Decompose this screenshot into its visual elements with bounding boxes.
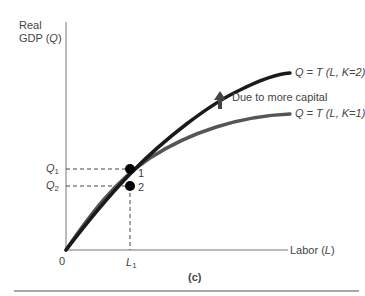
x-axis-label-post: ) [331,244,335,256]
q1-tick-label: Q1 [46,163,59,176]
y-axis-label-line2a: GDP ( [19,32,49,44]
bottom-rule [14,290,359,292]
q2-var: Q [46,179,55,191]
point-1-label: 1 [138,168,144,179]
l1-tick-label: L1 [126,257,137,270]
point-1-marker [125,164,135,174]
curve-k2-label: Q = T (L, K=2) [295,67,365,78]
point-2-label: 2 [138,182,144,193]
x-axis-label-pre: Labor ( [290,244,325,256]
curve-k1-label: Q = T (L, K=1) [295,108,365,119]
panel-label: (c) [188,272,201,283]
arrow-annotation: Due to more capital [232,92,327,103]
curve-k1 [66,114,290,250]
q2-sub: 2 [55,184,59,193]
l1-sub: 1 [132,261,136,270]
q1-sub: 1 [55,167,59,176]
q1-var: Q [46,162,55,174]
y-axis-label: Real GDP (Q) [19,19,62,45]
y-axis-label-line2b: ) [58,32,62,44]
y-axis-label-line1: Real [19,19,42,31]
point-2-marker [125,181,135,191]
x-axis-label: Labor (L) [290,245,335,256]
q2-tick-label: Q2 [46,180,59,193]
origin-label: 0 [59,256,65,267]
up-arrow-icon [214,91,226,109]
y-axis-var: Q [49,32,58,44]
